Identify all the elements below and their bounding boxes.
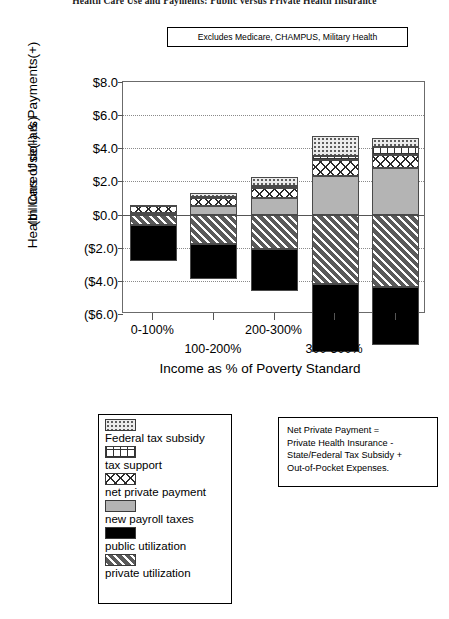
chart-legend: Federal tax subsidytax supportnet privat…: [98, 414, 232, 604]
solid-gray-swatch: [105, 500, 136, 512]
y-axis-tick-mark: [118, 215, 123, 216]
legend-item-label: new payroll taxes: [105, 512, 231, 526]
legend-item-label: tax support: [105, 458, 231, 472]
y-axis-tick-mark: [118, 281, 123, 282]
excludes-callout-box: Excludes Medicare, CHAMPUS, Military Hea…: [167, 27, 408, 47]
bar-segment-private-utilization[interactable]: [251, 215, 298, 250]
y-axis-tick-mark: [118, 181, 123, 182]
dots-pattern-swatch: [105, 419, 136, 431]
bar-segment-net-private-payment[interactable]: [372, 155, 419, 168]
bar-segment-new-payroll-taxes[interactable]: [312, 176, 359, 214]
excludes-callout-text: Excludes Medicare, CHAMPUS, Military Hea…: [198, 32, 378, 42]
crosshatch-pattern-swatch: [105, 473, 136, 485]
x-axis-tick-mark: [274, 313, 275, 320]
y-axis-tick-mark: [118, 248, 123, 249]
bar-segment-net-private-payment[interactable]: [190, 198, 237, 206]
bar-segment-private-utilization[interactable]: [312, 215, 359, 285]
bar-segment-private-utilization[interactable]: [372, 215, 419, 288]
bar-segment-federal-tax-subsidy[interactable]: [251, 177, 298, 186]
diagonal-hatch-swatch: [105, 554, 136, 566]
x-axis-category-label: 200-300%: [229, 323, 319, 337]
y-axis-tick-label: $4.0: [58, 141, 118, 156]
legend-item-label: private utilization: [105, 566, 231, 580]
x-axis-tick-mark: [152, 313, 153, 320]
y-axis-tick-label: $8.0: [58, 75, 118, 90]
x-axis-category-label: 300-500%: [289, 342, 379, 356]
y-axis-tick-label: ($4.0): [58, 273, 118, 288]
x-axis-title: Income as % of Poverty Standard: [95, 361, 425, 376]
bar-segment-new-payroll-taxes[interactable]: [372, 168, 419, 214]
legend-item-label: net private payment: [105, 485, 231, 499]
stacked-bar[interactable]: [372, 82, 419, 314]
bar-segment-private-utilization[interactable]: [130, 215, 177, 225]
x-axis-tick-mark: [213, 313, 214, 320]
plot-area: $8.0$6.0$4.0$2.0$0.0($2.0)($4.0)($6.0): [122, 81, 425, 313]
bar-segment-federal-tax-subsidy[interactable]: [372, 138, 419, 147]
stacked-bar[interactable]: [130, 82, 177, 314]
chart-title: Health Care Use and Payments: Public ver…: [0, 0, 449, 6]
legend-item-label: public utilization: [105, 539, 231, 553]
y-axis-tick-label: $2.0: [58, 174, 118, 189]
legend-item[interactable]: net private payment: [105, 473, 231, 499]
y-axis-tick-mark: [118, 115, 123, 116]
bar-segment-new-payroll-taxes[interactable]: [190, 206, 237, 214]
note-line: Net Private Payment =: [287, 424, 437, 437]
note-line: Private Health Insurance -: [287, 437, 437, 450]
bar-segment-public-utilization[interactable]: [190, 244, 237, 279]
bar-segment-federal-tax-subsidy[interactable]: [190, 193, 237, 197]
note-line: Out-of-Pocket Expenses.: [287, 462, 437, 475]
bar-segment-public-utilization[interactable]: [251, 249, 298, 290]
y-axis-tick-label: $6.0: [58, 108, 118, 123]
legend-item[interactable]: Federal tax subsidy: [105, 419, 231, 445]
x-axis-category-label: 0-100%: [107, 323, 197, 337]
bar-segment-new-payroll-taxes[interactable]: [251, 198, 298, 215]
x-axis-category-label: 500%+: [350, 323, 440, 337]
y-axis-tick-label: $0.0: [58, 207, 118, 222]
bar-segment-tax-support[interactable]: [372, 147, 419, 154]
bar-segment-net-private-payment[interactable]: [312, 160, 359, 177]
solid-black-swatch: [105, 527, 136, 539]
y-axis-tick-mark: [118, 148, 123, 149]
x-axis-category-label: 100-200%: [168, 342, 258, 356]
bar-segment-tax-support[interactable]: [312, 156, 359, 160]
y-axis-tick-label: ($2.0): [58, 240, 118, 255]
bar-segment-private-utilization[interactable]: [190, 215, 237, 245]
legend-item[interactable]: private utilization: [105, 554, 231, 580]
x-axis-tick-mark: [334, 313, 335, 320]
y-axis-tick-mark: [118, 314, 123, 315]
bar-segment-public-utilization[interactable]: [130, 225, 177, 261]
legend-item[interactable]: new payroll taxes: [105, 500, 231, 526]
y-axis-tick-label: ($6.0): [58, 307, 118, 322]
legend-item-label: Federal tax subsidy: [105, 431, 231, 445]
stacked-bar[interactable]: [251, 82, 298, 314]
bar-segment-tax-support[interactable]: [190, 197, 237, 199]
legend-item[interactable]: public utilization: [105, 527, 231, 553]
bar-segment-federal-tax-subsidy[interactable]: [312, 136, 359, 156]
stacked-bar[interactable]: [190, 82, 237, 314]
bar-segment-net-private-payment[interactable]: [130, 206, 177, 213]
stacked-bar[interactable]: [312, 82, 359, 314]
y-axis-tick-mark: [118, 82, 123, 83]
bar-segment-tax-support[interactable]: [251, 186, 298, 188]
legend-item[interactable]: tax support: [105, 446, 231, 472]
net-private-payment-note-box: Net Private Payment =Private Health Insu…: [278, 417, 438, 487]
x-axis-tick-mark: [395, 313, 396, 320]
y-axis-title-line2: (billions of dollars): [23, 76, 41, 266]
bar-segment-federal-tax-subsidy[interactable]: [130, 205, 177, 207]
bar-segment-net-private-payment[interactable]: [251, 188, 298, 198]
note-line: State/Federal Tax Subsidy +: [287, 449, 437, 462]
grid-pattern-swatch: [105, 446, 136, 458]
